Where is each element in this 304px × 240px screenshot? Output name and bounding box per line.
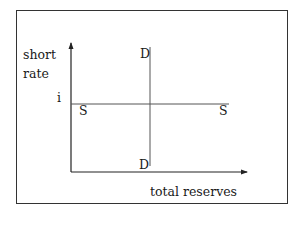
x-axis-label: total reserves xyxy=(150,186,237,199)
demand-label-bottom: D xyxy=(139,159,149,172)
demand-label-top: D xyxy=(140,48,150,61)
y-axis-label-short: short xyxy=(23,49,56,62)
rate-level-label: i xyxy=(57,92,61,105)
y-axis-label-rate: rate xyxy=(23,68,49,81)
supply-label-right: S xyxy=(219,105,228,118)
supply-label-left: S xyxy=(79,105,88,118)
